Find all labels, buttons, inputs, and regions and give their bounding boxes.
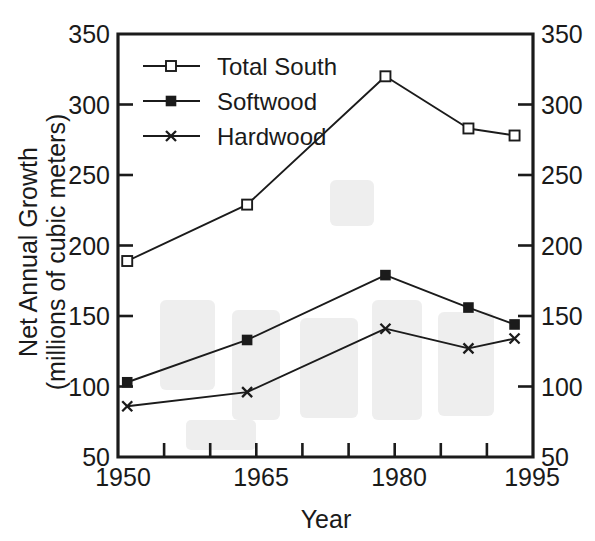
y-tick-label-right-300: 300: [541, 91, 583, 119]
legend-item-hardwood: Hardwood: [143, 123, 326, 150]
y-tick-label-right-150: 150: [541, 302, 583, 330]
legend: Total South Softwood Hardwood: [143, 53, 337, 150]
net-annual-growth-line-chart: 350 300 250 200 150 100 50 350 300 250 2…: [0, 0, 595, 541]
data-point-1979-320: [380, 71, 390, 81]
paper-texture: [160, 180, 494, 450]
y-tick-label-right-100: 100: [541, 373, 583, 401]
filled-square-icon: [167, 97, 176, 106]
x-axis-labels: 1950 1965 1980 1995: [95, 463, 560, 491]
y-axis-right-ticks: [518, 105, 533, 387]
y-axis-title-line2: (millions of cubic meters): [42, 114, 70, 390]
y-tick-label-left-250: 250: [68, 161, 110, 189]
y-axis-title: Net Annual Growth (millions of cubic met…: [14, 114, 70, 390]
x-tick-label-1980: 1980: [371, 463, 427, 491]
y-tick-label-right-200: 200: [541, 232, 583, 260]
x-tick-label-1965: 1965: [233, 463, 289, 491]
data-point-1951-103: [123, 378, 132, 387]
x-axis-title: Year: [301, 505, 352, 533]
y-tick-label-left-300: 300: [68, 91, 110, 119]
data-point-1979-179: [381, 271, 390, 280]
legend-label-total-south: Total South: [217, 53, 337, 80]
data-point-1951-189: [122, 256, 132, 266]
y-tick-label-left-350: 350: [68, 20, 110, 48]
y-axis-left-labels: 350 300 250 200 150 100 50: [68, 20, 110, 471]
open-square-icon: [166, 61, 176, 71]
legend-item-total-south: Total South: [143, 53, 337, 80]
chart-container: 350 300 250 200 150 100 50 350 300 250 2…: [0, 0, 595, 541]
data-point-1993-278: [510, 131, 520, 141]
y-tick-label-right-250: 250: [541, 161, 583, 189]
legend-item-softwood: Softwood: [143, 88, 317, 115]
data-point-1988-156: [464, 303, 473, 312]
data-point-1988-283: [463, 123, 473, 133]
y-tick-label-right-350: 350: [541, 20, 583, 48]
y-axis-right-labels: 350 300 250 200 150 100 50: [541, 20, 583, 471]
y-tick-label-left-100: 100: [68, 373, 110, 401]
data-point-1964-133: [243, 335, 252, 344]
y-axis-title-line1: Net Annual Growth: [14, 147, 42, 357]
data-point-1993-144: [510, 320, 519, 329]
series-line: [127, 76, 514, 261]
x-tick-label-1995: 1995: [504, 463, 560, 491]
y-tick-label-left-150: 150: [68, 302, 110, 330]
data-point-1964-229: [242, 200, 252, 210]
x-tick-label-1950: 1950: [95, 463, 151, 491]
legend-label-softwood: Softwood: [217, 88, 317, 115]
y-axis-left-ticks: [118, 105, 133, 387]
y-tick-label-left-200: 200: [68, 232, 110, 260]
